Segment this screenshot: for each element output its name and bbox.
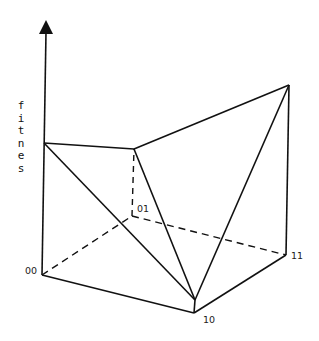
- fitness-line-01-hidden: [132, 149, 134, 216]
- fitness-landscape-diagram: f i t n e s 00 01 10 11: [0, 0, 319, 341]
- base-edge-00-10: [42, 275, 194, 313]
- fitness-line-11: [286, 85, 289, 255]
- axis-label-letter: t: [14, 125, 28, 138]
- point-label-00: 00: [25, 265, 37, 276]
- fitness-axis: [42, 32, 46, 275]
- fitness-axis-label: f i t n e s: [14, 100, 28, 175]
- diagram-graphic: [0, 0, 319, 341]
- base-edge-01-11-hidden: [132, 216, 286, 255]
- axis-label-letter: s: [14, 163, 28, 176]
- fitness-line-10: [194, 300, 195, 313]
- base-edge-10-11: [194, 255, 286, 313]
- point-label-11: 11: [291, 250, 303, 261]
- axis-label-letter: f: [14, 100, 28, 113]
- surface-edge-00-01: [44, 143, 134, 149]
- point-label-10: 10: [203, 314, 215, 325]
- axis-arrow-icon: [39, 20, 53, 34]
- axis-label-letter: e: [14, 150, 28, 163]
- surface-edge-00-10: [44, 143, 195, 300]
- surface-edge-01-10: [134, 149, 195, 300]
- base-edge-00-01-hidden: [42, 216, 132, 275]
- point-label-01: 01: [137, 203, 149, 214]
